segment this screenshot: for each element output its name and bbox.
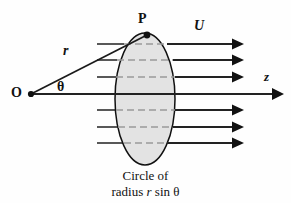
scattering-diagram-figure: P U z O r θ Circle of radius r sin θ <box>0 0 291 203</box>
flow-arrow-head-5 <box>232 122 244 133</box>
flow-arrow-head-3 <box>232 72 244 83</box>
flow-arrow-6 <box>167 138 244 149</box>
flow-arrow-3 <box>175 72 244 83</box>
label-angle-theta: θ <box>57 80 64 94</box>
flow-arrow-head-2 <box>232 55 244 66</box>
flow-arrow-head-1 <box>232 39 244 50</box>
label-point-p: P <box>138 12 147 26</box>
caption-radius-word: radius <box>112 184 144 199</box>
caption-radius-symbol: r <box>147 184 152 199</box>
flow-arrow-5 <box>173 122 244 133</box>
caption-line-2: radius r sin θ <box>0 184 291 200</box>
caption-radius-expression: sin θ <box>155 184 180 199</box>
label-velocity-u: U <box>194 19 204 33</box>
origin-point-marker <box>28 91 34 97</box>
z-axis-arrow-head <box>272 88 284 100</box>
flow-arrow-1 <box>167 39 244 50</box>
flow-arrow-head-6 <box>232 138 244 149</box>
flow-arrow-4 <box>175 105 244 116</box>
flow-arrow-head-4 <box>232 105 244 116</box>
label-origin-o: O <box>11 86 22 100</box>
figure-caption: Circle of radius r sin θ <box>0 168 291 200</box>
flow-arrow-2 <box>173 55 244 66</box>
point-p-marker <box>144 32 151 39</box>
sphere-cross-section-ellipse <box>115 33 175 165</box>
caption-line-1: Circle of <box>0 168 291 184</box>
label-axis-z: z <box>264 70 269 83</box>
label-radius-r: r <box>63 44 68 58</box>
